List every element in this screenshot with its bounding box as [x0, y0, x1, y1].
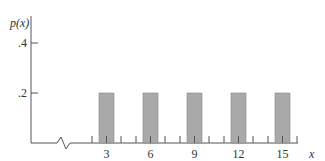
- x-tick-label-12: 12: [233, 147, 245, 161]
- x-tick-label-15: 15: [277, 147, 289, 161]
- x-tick-label-3: 3: [104, 147, 110, 161]
- y-tick-label-4: .4: [18, 36, 27, 50]
- x-tick-label-6: 6: [148, 147, 154, 161]
- x-tick-label-9: 9: [192, 147, 198, 161]
- x-axis-label: x: [308, 147, 315, 161]
- bar-15: [275, 93, 290, 143]
- bar-9: [187, 93, 202, 143]
- y-tick-label-2: .2: [18, 86, 27, 100]
- y-axis-label: p(x): [9, 16, 29, 30]
- bar-6: [143, 93, 158, 143]
- x-ticks: [92, 136, 297, 143]
- bar-3: [99, 93, 114, 143]
- bar-12: [231, 93, 246, 143]
- chart: p(x) .4 .2 3 6 9 12 15 x: [0, 0, 325, 161]
